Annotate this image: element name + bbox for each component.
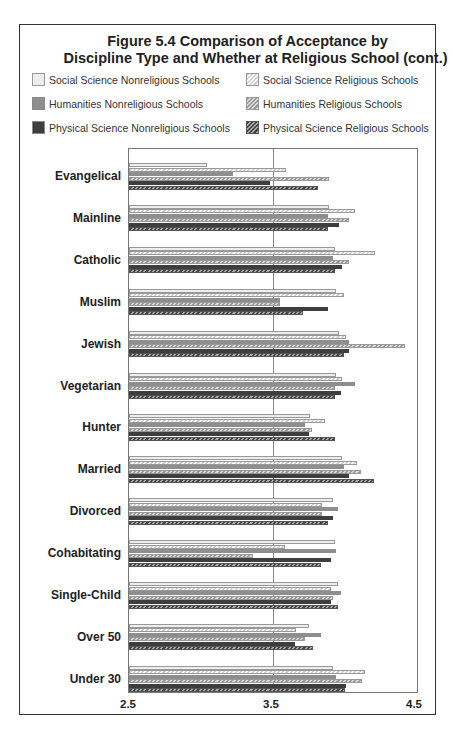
legend-label: Humanities Religious Schools (263, 98, 402, 110)
bar (129, 596, 333, 600)
bar (129, 628, 296, 632)
legend-label: Physical Science Nonreligious Schools (49, 122, 230, 134)
bar (129, 289, 336, 293)
x-tick-label: 3.5 (263, 698, 279, 710)
bar (129, 298, 280, 302)
legend-item: Humanities Nonreligious Schools (32, 97, 203, 110)
bar (129, 558, 331, 562)
legend-label: Social Science Religious Schools (263, 74, 418, 86)
bar (129, 205, 329, 209)
bar (129, 373, 336, 377)
bar (129, 163, 207, 167)
bar (129, 456, 342, 460)
bar (129, 470, 361, 474)
bar (129, 302, 280, 306)
bar (129, 395, 335, 399)
bar (129, 251, 375, 255)
figure-frame: Figure 5.4 Comparison of Acceptance by D… (19, 24, 436, 715)
bar (129, 377, 342, 381)
category-label: Vegetarian (60, 379, 121, 393)
category-label: Divorced (70, 504, 121, 518)
bar (129, 554, 253, 558)
bar (129, 414, 310, 418)
bar (129, 516, 333, 520)
bar (129, 186, 318, 190)
bar (129, 512, 322, 516)
bar (129, 684, 346, 688)
bar (129, 600, 331, 604)
bar (129, 591, 341, 595)
bar (129, 331, 339, 335)
legend-label: Humanities Nonreligious Schools (49, 98, 203, 110)
bar (129, 168, 286, 172)
bar (129, 209, 355, 213)
chart-title: Figure 5.4 Comparison of Acceptance by (40, 33, 452, 50)
legend-item: Humanities Religious Schools (246, 97, 402, 110)
bar (129, 269, 335, 273)
legend-swatch-icon (246, 97, 259, 110)
legend-swatch-icon (32, 73, 45, 86)
bar (129, 307, 328, 311)
bar (129, 563, 321, 567)
bar (129, 260, 349, 264)
bar (129, 521, 328, 525)
category-label: Hunter (82, 420, 121, 434)
legend-item: Social Science Nonreligious Schools (32, 73, 219, 86)
category-label: Evangelical (55, 169, 121, 183)
category-label: Cohabitating (48, 546, 121, 560)
bar (129, 181, 270, 185)
bar (129, 675, 336, 679)
bar (129, 637, 305, 641)
bar (129, 582, 338, 586)
bar (129, 679, 362, 683)
legend-swatch-icon (246, 121, 259, 134)
bar (129, 549, 336, 553)
bar (129, 247, 335, 251)
bar (129, 353, 344, 357)
bar (129, 311, 303, 315)
legend-item: Physical Science Religious Schools (246, 121, 429, 134)
bar (129, 419, 325, 423)
bar (129, 465, 344, 469)
legend-label: Social Science Nonreligious Schools (49, 74, 219, 86)
category-label: Muslim (80, 295, 121, 309)
legend-swatch-icon (246, 73, 259, 86)
bar (129, 349, 349, 353)
bar (129, 223, 339, 227)
category-label: Jewish (81, 337, 121, 351)
legend-item: Physical Science Nonreligious Schools (32, 121, 230, 134)
bar (129, 633, 321, 637)
bar (129, 428, 312, 432)
bar (129, 335, 346, 339)
bar (129, 293, 344, 297)
category-label: Catholic (74, 253, 121, 267)
x-tick-label: 4.5 (406, 698, 422, 710)
legend-label: Physical Science Religious Schools (263, 122, 429, 134)
bar (129, 646, 313, 650)
category-label: Married (78, 462, 121, 476)
bar (129, 624, 309, 628)
bar (129, 172, 233, 176)
bar (129, 507, 338, 511)
bar (129, 437, 335, 441)
category-label: Single-Child (51, 588, 121, 602)
category-label: Over 50 (77, 630, 121, 644)
bar (129, 340, 349, 344)
bar (129, 391, 341, 395)
bar (129, 642, 295, 646)
bar (129, 461, 357, 465)
bar (129, 382, 355, 386)
category-label: Mainline (73, 211, 121, 225)
bar (129, 214, 328, 218)
bar (129, 503, 322, 507)
bar (129, 474, 349, 478)
bar (129, 177, 329, 181)
bar (129, 545, 285, 549)
bar (129, 227, 328, 231)
bar (129, 605, 338, 609)
bar (129, 386, 335, 390)
legend-swatch-icon (32, 121, 45, 134)
bar (129, 688, 345, 692)
bar (129, 587, 331, 591)
plot-area: EvangelicalMainlineCatholicMuslimJewishV… (128, 148, 418, 693)
